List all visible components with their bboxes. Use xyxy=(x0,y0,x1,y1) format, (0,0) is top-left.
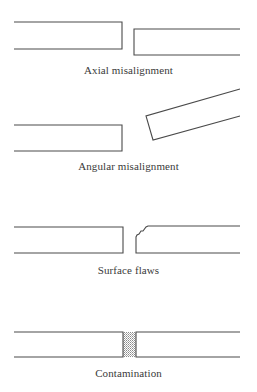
contamination-right-fiber xyxy=(136,332,240,357)
surface-left-fiber xyxy=(14,227,123,253)
surface-flaws-figure xyxy=(14,226,240,253)
surface-flaws-caption: Surface flaws xyxy=(0,264,257,276)
contamination-figure xyxy=(14,332,240,357)
fiber-splice-defects-diagram xyxy=(0,0,257,392)
axial-right-fiber xyxy=(134,29,240,55)
axial-left-fiber xyxy=(14,22,122,49)
contamination-caption: Contamination xyxy=(0,367,257,379)
contamination-left-fiber xyxy=(14,332,123,357)
angular-left-fiber xyxy=(14,125,122,151)
surface-right-fiber xyxy=(136,226,240,253)
contaminant-particles xyxy=(123,332,136,357)
angular-misalignment-caption: Angular misalignment xyxy=(0,160,257,172)
axial-misalignment-caption: Axial misalignment xyxy=(0,64,257,76)
angular-right-fiber xyxy=(146,89,240,140)
axial-misalignment-figure xyxy=(14,22,240,55)
angular-misalignment-figure xyxy=(14,89,240,151)
